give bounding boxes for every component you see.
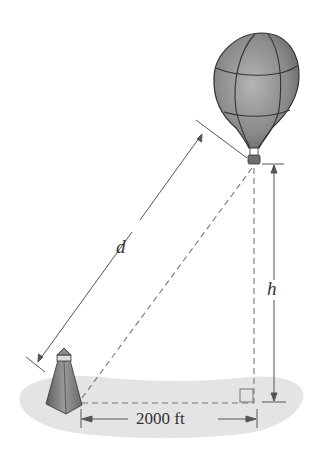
hot-air-balloon-icon [214,33,299,164]
height-label: h [267,278,277,300]
diagram-canvas [0,0,318,458]
dashed-lines [82,168,254,403]
distance-d-dimension [26,120,247,372]
distance-label: d [116,236,126,258]
horizontal-distance-label: 2000 ft [136,409,185,429]
